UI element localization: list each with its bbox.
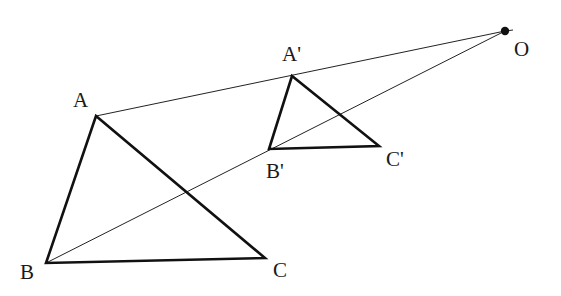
label-b-prime: B' [266, 159, 284, 183]
center-point-o [501, 27, 509, 35]
label-c-prime: C' [386, 147, 404, 171]
label-b: B [20, 260, 34, 284]
triangle-abc [46, 116, 265, 263]
label-o: O [514, 37, 529, 61]
homothety-diagram: O A B C A' B' C' [0, 0, 561, 296]
ray-b-to-o [46, 31, 505, 263]
label-c: C [273, 258, 287, 282]
label-a: A [73, 88, 89, 112]
triangle-a-prime-b-prime-c-prime [269, 76, 379, 149]
label-a-prime: A' [282, 42, 301, 66]
